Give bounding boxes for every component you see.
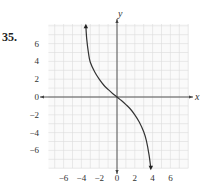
x-axis-label: x	[194, 91, 200, 102]
y-tick-label: 2	[35, 74, 40, 84]
y-tick-label: 4	[35, 56, 40, 66]
y-axis-label: y	[117, 8, 123, 19]
y-tick-label: 0	[35, 92, 40, 102]
x-tick-label: −2	[94, 173, 104, 183]
x-tick-label: 4	[150, 173, 155, 183]
grid	[48, 24, 188, 168]
y-tick-label: −2	[29, 110, 39, 120]
y-axis-arrow-up	[115, 19, 118, 23]
chart: 35. −6−4−202466420−2−4−6 x y	[0, 0, 205, 187]
x-tick-label: −4	[77, 173, 87, 183]
x-axis-arrow-right	[189, 95, 193, 98]
y-tick-label: 6	[35, 39, 40, 49]
problem-number: 35.	[2, 30, 17, 44]
x-tick-label: −6	[59, 173, 69, 183]
x-axis-arrow-left	[40, 95, 44, 98]
y-tick-label: −4	[29, 128, 39, 138]
x-tick-label: 0	[115, 173, 120, 183]
grid-background	[48, 24, 188, 168]
x-tick-label: 2	[133, 173, 138, 183]
y-tick-label: −6	[29, 145, 39, 155]
x-tick-label: 6	[168, 173, 173, 183]
